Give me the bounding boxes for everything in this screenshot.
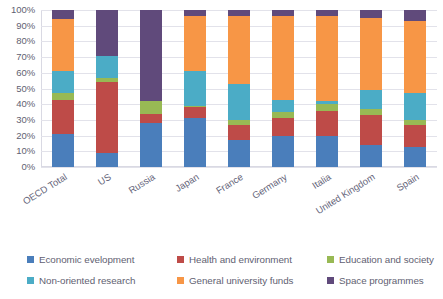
bar-stack bbox=[316, 10, 338, 167]
bar-segment[interactable] bbox=[228, 84, 250, 120]
bar-segment[interactable] bbox=[404, 147, 426, 167]
bar-stack bbox=[360, 10, 382, 167]
y-axis-tick-label: 90% bbox=[16, 21, 35, 31]
x-axis-label-slot: OECD Total bbox=[41, 167, 85, 229]
bar-stack bbox=[404, 10, 426, 167]
bar-segment[interactable] bbox=[96, 10, 118, 56]
bar-stack bbox=[96, 10, 118, 167]
legend-swatch-icon bbox=[27, 277, 34, 284]
legend-label: Non-oriented research bbox=[39, 275, 135, 286]
legend-item[interactable]: Non-oriented research bbox=[27, 275, 177, 286]
bar-segment[interactable] bbox=[272, 118, 294, 135]
legend-item[interactable]: Education and society bbox=[327, 254, 437, 265]
bar-group[interactable] bbox=[52, 10, 74, 167]
y-axis-tick-label: 80% bbox=[16, 36, 35, 46]
stacked-bar-chart: 0%10%20%30%40%50%60%70%80%90%100% OECD T… bbox=[0, 0, 443, 299]
bar-segment[interactable] bbox=[228, 140, 250, 167]
bar-segment[interactable] bbox=[140, 114, 162, 123]
y-axis-tick-label: 40% bbox=[16, 99, 35, 109]
legend-item[interactable]: Economic evelopment bbox=[27, 254, 177, 265]
bar-segment[interactable] bbox=[360, 10, 382, 18]
bar-segment[interactable] bbox=[360, 145, 382, 167]
bar-segment[interactable] bbox=[404, 125, 426, 147]
x-axis-tick-label: Russia bbox=[126, 171, 156, 196]
bar-segment[interactable] bbox=[316, 136, 338, 167]
bar-segment[interactable] bbox=[184, 118, 206, 167]
y-axis-tick-label: 30% bbox=[16, 115, 35, 125]
bar-segment[interactable] bbox=[140, 10, 162, 101]
y-axis-tick-label: 50% bbox=[16, 84, 35, 94]
x-axis-label-slot: Spain bbox=[393, 167, 437, 229]
bar-segment[interactable] bbox=[360, 18, 382, 90]
x-axis-tick-label: Japan bbox=[173, 171, 201, 194]
legend-label: Education and society bbox=[339, 254, 434, 265]
plot-area bbox=[41, 10, 437, 167]
bar-segment[interactable] bbox=[404, 10, 426, 21]
x-axis-tick-label: Italia bbox=[310, 171, 333, 191]
x-axis-label-slot: US bbox=[85, 167, 129, 229]
chart-legend: Economic evelopmentNon-oriented research… bbox=[27, 249, 437, 291]
bar-segment[interactable] bbox=[228, 16, 250, 84]
bar-segment[interactable] bbox=[96, 82, 118, 153]
bar-group[interactable] bbox=[360, 10, 382, 167]
y-axis-tick-label: 70% bbox=[16, 52, 35, 62]
bar-segment[interactable] bbox=[96, 56, 118, 78]
bar-segment[interactable] bbox=[228, 125, 250, 141]
legend-swatch-icon bbox=[327, 256, 334, 263]
x-axis-tick-label: France bbox=[214, 171, 245, 196]
bar-segment[interactable] bbox=[272, 136, 294, 167]
bar-group[interactable] bbox=[316, 10, 338, 167]
bar-segment[interactable] bbox=[272, 100, 294, 113]
legend-label: Health and environment bbox=[189, 254, 292, 265]
legend-label: Economic evelopment bbox=[39, 254, 134, 265]
bar-segment[interactable] bbox=[316, 111, 338, 136]
legend-label: Space programmes bbox=[339, 275, 424, 286]
x-axis-tick-label: Spain bbox=[394, 171, 420, 193]
bar-group[interactable] bbox=[184, 10, 206, 167]
x-axis-label-slot: United Kingdom bbox=[349, 167, 393, 229]
bar-segment[interactable] bbox=[52, 134, 74, 167]
bar-segment[interactable] bbox=[52, 100, 74, 135]
x-axis-label-slot: Germany bbox=[261, 167, 305, 229]
bar-group[interactable] bbox=[96, 10, 118, 167]
bar-segment[interactable] bbox=[140, 123, 162, 167]
bar-segment[interactable] bbox=[404, 21, 426, 93]
legend-swatch-icon bbox=[327, 277, 334, 284]
x-axis-tick-label: OECD Total bbox=[21, 171, 69, 207]
legend-swatch-icon bbox=[177, 277, 184, 284]
bar-stack bbox=[140, 10, 162, 167]
bar-group[interactable] bbox=[228, 10, 250, 167]
legend-swatch-icon bbox=[177, 256, 184, 263]
y-axis: 0%10%20%30%40%50%60%70%80%90%100% bbox=[0, 10, 38, 167]
bar-segment[interactable] bbox=[316, 16, 338, 101]
bar-segment[interactable] bbox=[184, 16, 206, 71]
y-axis-tick-label: 10% bbox=[16, 146, 35, 156]
bar-segment[interactable] bbox=[272, 16, 294, 99]
bar-stack bbox=[184, 10, 206, 167]
bars-layer bbox=[41, 10, 437, 167]
legend-item[interactable]: Health and environment bbox=[177, 254, 327, 265]
bar-segment[interactable] bbox=[404, 93, 426, 120]
y-axis-tick-label: 60% bbox=[16, 68, 35, 78]
legend-item[interactable]: General university funds bbox=[177, 275, 327, 286]
bar-segment[interactable] bbox=[184, 107, 206, 118]
legend-item[interactable]: Space programmes bbox=[327, 275, 437, 286]
bar-segment[interactable] bbox=[52, 10, 74, 19]
bar-segment[interactable] bbox=[52, 71, 74, 93]
bar-segment[interactable] bbox=[52, 19, 74, 71]
y-axis-tick-label: 20% bbox=[16, 131, 35, 141]
x-axis-tick-label: US bbox=[96, 171, 113, 187]
bar-segment[interactable] bbox=[184, 71, 206, 106]
y-axis-tick-label: 100% bbox=[11, 5, 35, 15]
bar-segment[interactable] bbox=[140, 101, 162, 114]
bar-group[interactable] bbox=[272, 10, 294, 167]
bar-group[interactable] bbox=[140, 10, 162, 167]
bar-stack bbox=[272, 10, 294, 167]
bar-segment[interactable] bbox=[360, 90, 382, 109]
bar-stack bbox=[228, 10, 250, 167]
legend-label: General university funds bbox=[189, 275, 293, 286]
bar-segment[interactable] bbox=[360, 115, 382, 145]
bar-segment[interactable] bbox=[96, 153, 118, 167]
bar-group[interactable] bbox=[404, 10, 426, 167]
y-axis-tick-label: 0% bbox=[21, 162, 35, 172]
